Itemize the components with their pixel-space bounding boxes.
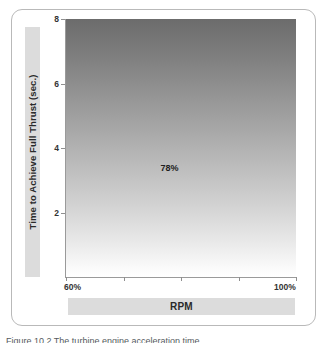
y-axis-label: Time to Achieve Full Thrust (sec.) (25, 27, 40, 277)
x-axis-line (65, 277, 297, 278)
figure-caption: Figure 10.2 The turbine engine accelerat… (6, 336, 326, 343)
annotation-label-78: 78% (161, 164, 179, 173)
x-axis-label: RPM (68, 298, 295, 315)
figure-root: Time to Achieve Full Thrust (sec.) 24686… (0, 0, 329, 343)
y-axis-line (65, 19, 66, 278)
plot-background-gradient (66, 19, 296, 277)
plot-area (66, 19, 296, 277)
